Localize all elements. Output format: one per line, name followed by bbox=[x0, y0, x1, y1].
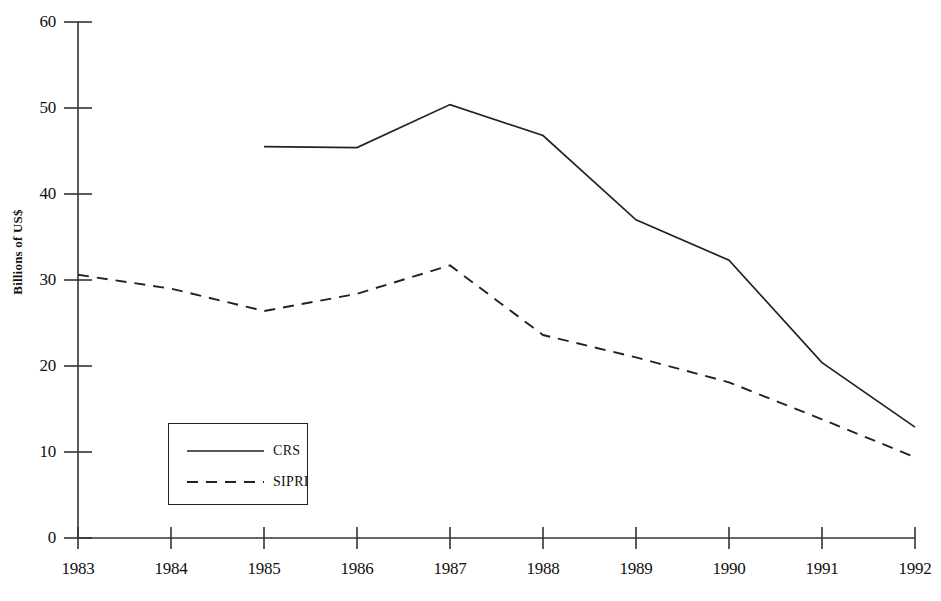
line-chart-figure: Billions of US$ 60 50 40 30 20 10 0 1983… bbox=[0, 0, 941, 601]
legend-swatches bbox=[169, 424, 307, 504]
legend: CRS SIPRI bbox=[168, 423, 308, 505]
plot-area bbox=[0, 0, 941, 601]
legend-label-crs: CRS bbox=[273, 443, 300, 459]
legend-label-sipri: SIPRI bbox=[273, 474, 309, 490]
series-line-crs bbox=[264, 105, 915, 428]
